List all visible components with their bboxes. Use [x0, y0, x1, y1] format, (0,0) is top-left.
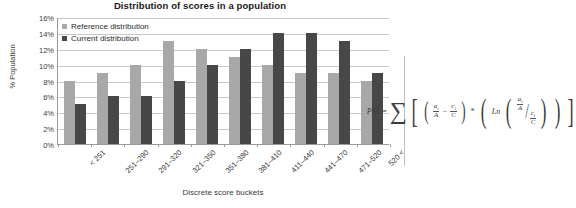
x-axis-tick [91, 144, 92, 147]
psi-formula-expression: PSI = ∑ [ ( ai A − ci C ) * ( Ln ( ai A [367, 94, 576, 128]
chart-legend: Reference distribution Current distribut… [62, 22, 149, 43]
bar [64, 81, 75, 145]
legend-label-reference: Reference distribution [71, 22, 149, 31]
fraction-ci-over-C: ci C [450, 103, 457, 120]
fraction-ai-over-A-inner: ai A [517, 96, 524, 113]
bar-group [323, 18, 356, 144]
x-axis-tick [357, 144, 358, 147]
x-axis-category-label: 381–410 [256, 148, 283, 175]
times-sign: * [470, 107, 476, 116]
x-axis-category-label: 471–520 [356, 148, 383, 175]
x-axis-tick [290, 144, 291, 147]
bar [97, 73, 108, 144]
x-axis-tick [124, 144, 125, 147]
C-denominator-inner: C [530, 118, 537, 126]
A-denominator: A [433, 111, 439, 119]
x-axis-label: Discrete score buckets [57, 188, 389, 197]
A-denominator-inner: A [517, 104, 523, 112]
x-axis-category-label: < 251 [87, 148, 107, 168]
bar-chart: Distribution of scores in a population %… [0, 0, 400, 208]
ln-operator: Ln [491, 107, 501, 116]
fraction-ci-over-C-inner: ci C [530, 110, 537, 127]
bar [229, 57, 240, 144]
bar-group [190, 18, 223, 144]
bar [306, 33, 317, 144]
paren-open-left: ( [424, 98, 428, 124]
x-axis-tick [158, 144, 159, 147]
bar [207, 65, 218, 144]
division-slash: / [525, 100, 529, 122]
bar-group [257, 18, 290, 144]
x-axis-category-label: 321–350 [190, 148, 217, 175]
bar-group [223, 18, 256, 144]
bar [174, 81, 185, 145]
psi-formula: PSI = ∑ [ ( ai A − ci C ) * ( Ln ( ai A [404, 56, 538, 166]
x-axis-category-label: 411–440 [289, 148, 316, 175]
bar [75, 104, 86, 144]
legend-swatch-reference-icon [62, 24, 67, 29]
bracket-close: ] [568, 94, 574, 128]
y-axis-tick-label: 10% [39, 61, 54, 70]
C-denominator: C [450, 111, 457, 119]
paren-close-left: ) [461, 98, 465, 124]
minus-sign: − [442, 107, 449, 116]
paren-close-right: ) [554, 94, 560, 128]
x-axis-tick [224, 144, 225, 147]
a-subscript-inner: i [521, 99, 522, 104]
equals-sign: = [381, 107, 388, 116]
bar [240, 49, 251, 144]
bar [108, 96, 119, 144]
y-axis-tick-label: 16% [39, 14, 54, 23]
bar [262, 65, 273, 144]
x-axis-tick [390, 144, 391, 147]
y-axis-tick-label: 14% [39, 29, 54, 38]
bar [273, 33, 284, 144]
a-subscript: i [437, 106, 438, 111]
x-axis-tick [257, 144, 258, 147]
x-axis-tick [58, 144, 59, 147]
bar [339, 41, 350, 144]
c-subscript: i [454, 106, 455, 111]
paren-close-inner: ) [541, 94, 547, 128]
bar [163, 41, 174, 144]
bar-group [290, 18, 323, 144]
x-axis-category-label: 251–290 [124, 148, 151, 175]
y-axis-tick-label: 0% [43, 141, 54, 150]
legend-item-reference: Reference distribution [62, 22, 149, 31]
bar-group [157, 18, 190, 144]
y-axis-label: % Population [8, 22, 17, 112]
x-axis-category-label: 351–380 [223, 148, 250, 175]
legend-swatch-current-icon [62, 36, 67, 41]
x-axis-category-label: 291–320 [157, 148, 184, 175]
x-axis-tick [191, 144, 192, 147]
y-axis-tick-label: 12% [39, 45, 54, 54]
bar [295, 73, 306, 144]
y-axis-tick-label: 8% [43, 77, 54, 86]
bar [141, 96, 152, 144]
ratio-of-fractions: ai A / ci C [517, 100, 537, 122]
summation-icon: ∑ [390, 99, 407, 123]
chart-title: Distribution of scores in a population [0, 0, 400, 11]
legend-label-current: Current distribution [71, 34, 139, 43]
x-axis-tick [324, 144, 325, 147]
legend-item-current: Current distribution [62, 34, 149, 43]
x-axis-category-label: 441–470 [323, 148, 350, 175]
paren-open-inner: ( [506, 94, 512, 128]
c-subscript-inner: i [534, 113, 535, 118]
bar [328, 73, 339, 144]
fraction-ai-over-A: ai A [433, 103, 440, 120]
psi-label: PSI [367, 107, 379, 116]
bar [130, 65, 141, 144]
paren-open-right: ( [480, 94, 486, 128]
y-axis-tick-label: 6% [43, 93, 54, 102]
y-axis-tick-label: 4% [43, 109, 54, 118]
y-axis-tick-label: 2% [43, 125, 54, 134]
bar [196, 49, 207, 144]
bracket-open: [ [411, 94, 417, 128]
